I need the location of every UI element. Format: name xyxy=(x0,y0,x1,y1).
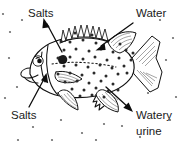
particle-dot-inside xyxy=(119,43,122,46)
particle-dot-inside xyxy=(91,94,94,97)
label-water: Water xyxy=(136,7,166,19)
particle-dot-inside xyxy=(126,72,129,75)
particle-dot-inside xyxy=(91,34,94,37)
particle-dot-inside xyxy=(105,75,108,78)
label-watery-urine-line1: Watery xyxy=(136,109,172,121)
particle-dot-outside xyxy=(172,37,174,39)
particle-dot-inside xyxy=(117,89,120,92)
particle-dot-inside xyxy=(64,81,67,84)
particle-dot-outside xyxy=(95,139,97,141)
particle-dot-inside xyxy=(60,40,63,43)
particle-dot-inside xyxy=(87,66,90,69)
particle-dot-inside xyxy=(123,65,126,68)
particle-dot-outside xyxy=(8,57,10,59)
particle-dot-inside xyxy=(112,83,115,86)
particle-dot-inside xyxy=(82,58,85,61)
particle-dot-inside xyxy=(69,56,72,59)
particle-dot-outside xyxy=(60,119,62,121)
fish-illustration xyxy=(21,25,162,112)
particle-dot-inside xyxy=(69,72,72,75)
particle-dot-inside xyxy=(79,95,82,98)
particle-dot-inside xyxy=(106,59,109,62)
particle-dot-inside xyxy=(88,50,91,53)
particle-dot-inside xyxy=(74,32,77,35)
particle-dot-outside xyxy=(121,125,123,127)
particle-dot-outside xyxy=(81,132,83,134)
particle-dot-inside xyxy=(112,51,115,54)
particle-dot-inside xyxy=(103,96,106,99)
label-salts-bottom: Salts xyxy=(11,109,37,121)
particle-dot-inside xyxy=(69,41,72,44)
particle-dot-inside xyxy=(117,73,120,76)
fish-osmoregulation-diagram: Salts Water Salts Watery urine xyxy=(0,0,182,148)
particle-dot-inside xyxy=(63,49,66,52)
particle-dot-outside xyxy=(9,31,11,33)
particle-dot-outside xyxy=(2,13,4,15)
particle-dot-outside xyxy=(147,92,149,94)
particle-dot-outside xyxy=(17,139,19,141)
particle-dot-outside xyxy=(32,126,34,128)
particle-dot-inside xyxy=(71,88,74,91)
particle-dot-inside xyxy=(100,80,103,83)
particle-dot-inside xyxy=(94,56,97,59)
fish-eye-pupil xyxy=(37,59,42,64)
particle-dot-outside xyxy=(103,123,105,125)
particle-dot-inside xyxy=(93,72,96,75)
particle-dot-outside xyxy=(21,19,23,21)
diagram-canvas: Salts Water Salts Watery urine xyxy=(0,0,182,148)
particle-dot-inside xyxy=(88,82,91,85)
particle-dot-inside xyxy=(95,87,98,90)
particle-dot-inside xyxy=(81,74,84,77)
particle-dot-outside xyxy=(175,96,177,98)
label-salts-top: Salts xyxy=(28,7,54,19)
particle-dot-inside xyxy=(76,80,79,83)
particle-dot-inside xyxy=(57,57,60,60)
particle-dot-outside xyxy=(4,97,6,99)
particle-dot-outside xyxy=(16,86,18,88)
particle-dot-outside xyxy=(165,59,167,61)
particle-dot-inside xyxy=(82,39,85,42)
particle-dot-inside xyxy=(75,64,78,67)
particle-dot-inside xyxy=(63,65,66,68)
particle-dot-inside xyxy=(118,57,121,60)
label-watery-urine-line2: urine xyxy=(136,125,162,137)
particle-dot-inside xyxy=(130,59,133,62)
particle-dot-inside xyxy=(125,49,128,52)
particle-dot-inside xyxy=(99,64,102,67)
particle-dot-inside xyxy=(132,52,135,55)
particle-dot-inside xyxy=(95,42,98,45)
particle-dot-inside xyxy=(75,48,78,51)
particle-dot-inside xyxy=(57,73,60,76)
particle-dot-outside xyxy=(159,19,161,21)
particle-dot-inside xyxy=(83,89,86,92)
particle-dot-inside xyxy=(111,67,114,70)
particle-dot-outside xyxy=(51,139,53,141)
